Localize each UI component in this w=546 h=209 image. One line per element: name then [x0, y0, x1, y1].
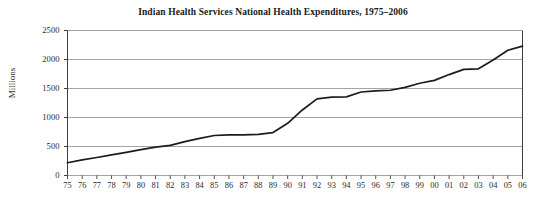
chart-figure: Indian Health Services National Health E… [0, 0, 546, 209]
gridlines [68, 31, 523, 176]
y-tick-label: 0 [20, 170, 60, 180]
y-tick-label: 2000 [20, 54, 60, 64]
y-tick-label: 500 [20, 141, 60, 151]
data-line-series-0 [68, 46, 523, 163]
y-tick-label: 2500 [20, 25, 60, 35]
plot-frame [68, 31, 523, 176]
y-tick-label: 1000 [20, 112, 60, 122]
y-tick-label: 1500 [20, 83, 60, 93]
x-axis-ticks [68, 176, 523, 180]
line-chart-svg [0, 0, 546, 209]
plot-area: 05001000150020002500 7576777879808182838… [0, 0, 546, 209]
x-tick-label: 06 [513, 181, 533, 190]
y-axis-ticks [64, 31, 68, 176]
